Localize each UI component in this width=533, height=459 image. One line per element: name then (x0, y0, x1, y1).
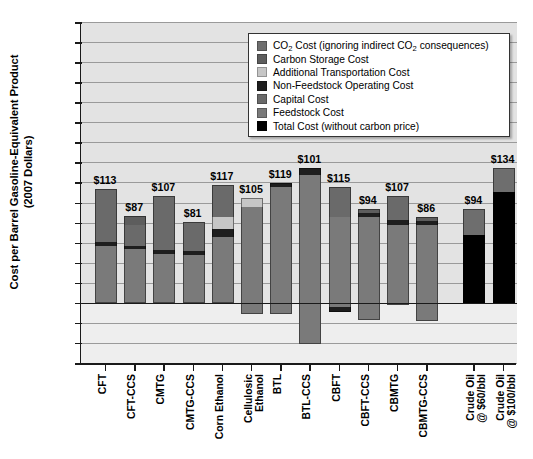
legend-item[interactable]: Additional Transportation Cost (257, 66, 503, 79)
x-axis-label-slot: Crude Oil @ $60/bbl (465, 374, 481, 456)
legend-swatch (257, 67, 267, 77)
x-axis-label: CBMTG-CCS (418, 374, 434, 456)
bar-outline (241, 198, 263, 314)
x-axis-label-slot: CFT-CCS (126, 374, 142, 456)
legend-label: CO2 Cost (ignoring indirect CO2 conseque… (273, 40, 489, 52)
x-axis-label-slot: CMTG-CCS (185, 374, 201, 456)
bar-btl-ccs[interactable] (299, 168, 321, 344)
bar-cbft[interactable] (329, 187, 351, 311)
bar-crude-oil-60-bbl[interactable] (463, 209, 485, 303)
x-axis-tick (339, 363, 340, 371)
x-axis-tick (193, 363, 194, 371)
bar-value-label: $94 (347, 195, 389, 206)
legend-item[interactable]: Carbon Storage Cost (257, 52, 503, 65)
legend-item[interactable]: Feedstock Cost (257, 106, 503, 119)
bar-outline (183, 222, 205, 303)
bar-value-label: $86 (405, 203, 447, 214)
legend-item[interactable]: CO2 Cost (ignoring indirect CO2 conseque… (257, 39, 503, 52)
y-axis-tick (75, 263, 82, 265)
x-axis-label-slot: CBFT-CCS (360, 374, 376, 456)
x-axis-label: Crude Oil @ $60/bbl (465, 374, 481, 456)
y-axis-tick (75, 182, 82, 184)
x-axis-label: CBMTG (389, 374, 405, 456)
bar-outline (463, 209, 485, 303)
bar-value-label: $115 (318, 173, 360, 184)
bar-value-label: $113 (84, 175, 126, 186)
legend-label: Feedstock Cost (273, 107, 344, 118)
bar-outline (212, 185, 234, 302)
legend-swatch (257, 108, 267, 118)
legend-label: Capital Cost (273, 94, 329, 105)
x-axis-label: BTL-CCS (301, 374, 317, 456)
x-axis-label: Crude Oil @ $100/bbl (495, 374, 511, 456)
y-axis-tick (75, 142, 82, 144)
bar-cft-ccs[interactable] (124, 216, 146, 303)
y-axis-tick (75, 323, 82, 325)
bar-cbmtg-ccs[interactable] (416, 217, 438, 321)
x-axis-label: CFT (97, 374, 113, 456)
bar-corn-ethanol[interactable] (212, 185, 234, 302)
y-axis-title-line1: Cost per Barrel Gasoline-Equivalent Prod… (7, 55, 21, 290)
x-axis-label-slot: CMTG (155, 374, 171, 456)
bar-outline (329, 187, 351, 311)
bar-value-label: $134 (482, 154, 524, 165)
legend-item[interactable]: Non-Feedstock Operating Cost (257, 79, 503, 92)
legend-item[interactable]: Capital Cost (257, 93, 503, 106)
bar-outline (124, 216, 146, 303)
bar-value-label: $117 (201, 171, 243, 182)
zero-line (81, 303, 517, 305)
legend-label: Total Cost (without carbon price) (273, 121, 419, 132)
x-axis-label: CBFT (331, 374, 347, 456)
y-axis-tick (75, 343, 82, 345)
legend-item[interactable]: Total Cost (without carbon price) (257, 119, 503, 132)
x-axis-label: CFT-CCS (126, 374, 142, 456)
bar-outline (270, 183, 292, 313)
y-axis-title: Cost per Barrel Gasoline-Equivalent Prod… (4, 17, 38, 327)
y-axis-tick (75, 223, 82, 225)
bar-cmtg-ccs[interactable] (183, 222, 205, 303)
y-axis-tick (75, 162, 82, 164)
bar-value-label: $101 (288, 154, 330, 165)
gridline (81, 22, 517, 23)
x-axis-tick (309, 363, 310, 371)
legend-swatch (257, 41, 267, 51)
x-axis-tick (473, 363, 474, 371)
y-axis-tick (75, 203, 82, 205)
x-axis-tick (426, 363, 427, 371)
x-axis-tick (368, 363, 369, 371)
gridline (81, 142, 517, 143)
x-axis-label: CBFT-CCS (360, 374, 376, 456)
x-axis-label: Corn Ethanol (214, 374, 230, 456)
x-axis-label-slot: Corn Ethanol (214, 374, 230, 456)
x-axis-label-slot: Crude Oil @ $100/bbl (495, 374, 511, 456)
y-axis-tick (75, 102, 82, 104)
x-axis-label-slot: CBFT (331, 374, 347, 456)
x-axis-tick (134, 363, 135, 371)
legend-swatch (257, 81, 267, 91)
bar-btl[interactable] (270, 183, 292, 313)
x-axis-label: CMTG (155, 374, 171, 456)
bar-outline (493, 168, 515, 302)
x-axis-label: BTL (272, 374, 288, 456)
legend-label: Non-Feedstock Operating Cost (273, 80, 413, 91)
y-axis-tick (75, 283, 82, 285)
bar-crude-oil-100-bbl[interactable] (493, 168, 515, 302)
chart-figure: Cost per Barrel Gasoline-Equivalent Prod… (0, 0, 533, 459)
x-axis-line (80, 363, 516, 365)
y-axis-tick (75, 243, 82, 245)
x-axis-label-slot: CFT (97, 374, 113, 456)
y-axis-tick (75, 82, 82, 84)
x-axis-label-slot: BTL-CCS (301, 374, 317, 456)
x-axis-tick (105, 363, 106, 371)
legend-label: Additional Transportation Cost (273, 67, 409, 78)
y-axis-tick (75, 62, 82, 64)
y-axis-tick (75, 122, 82, 124)
bar-outline (299, 168, 321, 344)
bar-value-label: $119 (259, 169, 301, 180)
x-axis-tick (222, 363, 223, 371)
x-axis-label: Cellulosic Ethanol (243, 374, 259, 456)
bar-value-label: $87 (113, 202, 155, 213)
y-axis-tick (75, 22, 82, 24)
bar-cellulosic-ethanol[interactable] (241, 198, 263, 314)
legend-swatch (257, 121, 267, 131)
